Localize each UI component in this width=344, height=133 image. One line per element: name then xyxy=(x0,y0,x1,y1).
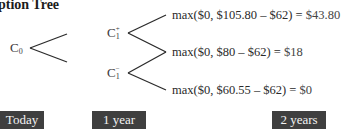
timeline-label-1-year: 1 year xyxy=(92,111,146,129)
payoff-expression: max($0, $60.55 – $62) = xyxy=(172,83,300,97)
payoff-result: $0 xyxy=(300,83,313,97)
payoff-result: $43.80 xyxy=(306,8,340,22)
timeline-label-today: Today xyxy=(0,111,44,129)
node-c1-up-base: C xyxy=(107,25,116,40)
timeline-label-2-years: 2 years xyxy=(272,111,326,129)
node-c1-down: C1− xyxy=(107,66,120,81)
branch-c1down-up xyxy=(128,52,166,73)
node-c1-up: C1+ xyxy=(107,26,120,41)
branch-c0-up xyxy=(30,34,67,48)
payoff-up-down: max($0, $80 – $62) = $18 xyxy=(172,46,303,59)
payoff-expression: max($0, $105.80 – $62) = xyxy=(172,8,306,22)
node-c0-sub: 0 xyxy=(19,47,23,56)
node-c0-base: C xyxy=(10,40,19,55)
branch-c1down-down xyxy=(128,73,166,90)
node-c0: C0 xyxy=(10,41,23,56)
branch-c1up-down xyxy=(128,33,166,52)
payoff-result: $18 xyxy=(284,45,303,59)
payoff-up-up: max($0, $105.80 – $62) = $43.80 xyxy=(172,9,340,22)
node-c1-down-base: C xyxy=(107,65,116,80)
payoff-expression: max($0, $80 – $62) = xyxy=(172,45,284,59)
payoff-down-down: max($0, $60.55 – $62) = $0 xyxy=(172,84,312,97)
node-c1-down-sub: 1 xyxy=(116,72,120,81)
branch-c0-down xyxy=(30,48,67,62)
branch-c1up-up xyxy=(128,15,166,33)
node-c1-up-sup: + xyxy=(116,25,120,33)
node-c1-down-sup: − xyxy=(116,65,120,73)
node-c1-up-sub: 1 xyxy=(116,32,120,41)
